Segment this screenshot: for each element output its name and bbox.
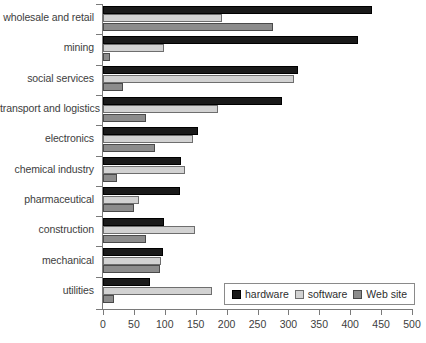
bar-hardware	[103, 248, 163, 256]
category-label: utilities	[0, 285, 94, 296]
y-axis-tick	[96, 186, 102, 187]
category-label: social services	[0, 73, 94, 84]
x-axis-tick	[258, 310, 259, 315]
bar-software	[103, 196, 139, 204]
bar-hardware	[103, 157, 181, 165]
x-axis-line	[96, 309, 413, 310]
bar-website	[103, 23, 273, 31]
bar-group	[103, 36, 412, 61]
bar-group	[103, 218, 412, 243]
x-axis-tick	[227, 310, 228, 315]
category-label: mining	[0, 42, 94, 53]
bar-software	[103, 257, 161, 265]
bar-software	[103, 135, 193, 143]
bar-group	[103, 97, 412, 122]
bar-hardware	[103, 66, 298, 74]
plot-area	[103, 4, 412, 307]
bar-software	[103, 44, 164, 52]
x-axis-tick	[319, 310, 320, 315]
category-label: transport and logistics	[0, 103, 94, 114]
bar-software	[103, 287, 212, 295]
bar-group	[103, 187, 412, 212]
legend-entry: software	[295, 288, 348, 300]
x-axis-tick	[103, 310, 104, 315]
bar-software	[103, 75, 294, 83]
bar-software	[103, 226, 195, 234]
x-axis-tick	[288, 310, 289, 315]
y-axis-tick	[96, 277, 102, 278]
bar-website	[103, 235, 146, 243]
x-axis-tick	[381, 310, 382, 315]
bar-hardware	[103, 6, 372, 14]
x-axis-tick	[350, 310, 351, 315]
bar-hardware	[103, 97, 282, 105]
y-axis-tick	[96, 34, 102, 35]
y-axis-line	[102, 4, 103, 309]
bar-hardware	[103, 278, 150, 286]
legend-label: software	[308, 288, 348, 300]
legend-swatch-website-icon	[353, 290, 362, 299]
legend-swatch-software-icon	[295, 290, 304, 299]
y-axis-tick	[96, 246, 102, 247]
x-axis-tick	[412, 310, 413, 315]
bar-software	[103, 105, 218, 113]
y-axis-tick	[96, 95, 102, 96]
bar-group	[103, 66, 412, 91]
category-label: mechanical	[0, 255, 94, 266]
y-axis-tick	[96, 125, 102, 126]
bar-website	[103, 204, 134, 212]
bar-software	[103, 14, 222, 22]
bar-website	[103, 174, 117, 182]
legend-entry: hardware	[232, 288, 289, 300]
bar-group	[103, 248, 412, 273]
legend-swatch-hardware-icon	[232, 290, 241, 299]
y-axis-tick	[96, 156, 102, 157]
bar-website	[103, 295, 114, 303]
bar-website	[103, 114, 146, 122]
bar-website	[103, 53, 110, 61]
bar-group	[103, 127, 412, 152]
bar-hardware	[103, 127, 198, 135]
y-axis-tick	[96, 4, 102, 5]
y-axis-tick	[96, 216, 102, 217]
bar-website	[103, 265, 160, 273]
category-label: construction	[0, 224, 94, 235]
x-axis-tick-label: 500	[392, 318, 426, 330]
bar-hardware	[103, 187, 180, 195]
legend-label: hardware	[245, 288, 289, 300]
category-axis: wholesale and retailminingsocial service…	[0, 4, 98, 307]
bar-group	[103, 6, 412, 31]
category-label: chemical industry	[0, 164, 94, 175]
chart-legend: hardwaresoftwareWeb site	[224, 283, 415, 305]
legend-entry: Web site	[353, 288, 407, 300]
x-axis-tick	[165, 310, 166, 315]
x-axis-tick	[196, 310, 197, 315]
bar-website	[103, 144, 155, 152]
category-label: pharmaceutical	[0, 194, 94, 205]
legend-label: Web site	[366, 288, 407, 300]
y-axis-tick	[96, 65, 102, 66]
bar-group	[103, 157, 412, 182]
x-axis-tick	[134, 310, 135, 315]
bar-hardware	[103, 218, 164, 226]
category-label: wholesale and retail	[0, 12, 94, 23]
bar-hardware	[103, 36, 358, 44]
category-label: electronics	[0, 133, 94, 144]
bar-website	[103, 83, 123, 91]
bar-software	[103, 166, 185, 174]
